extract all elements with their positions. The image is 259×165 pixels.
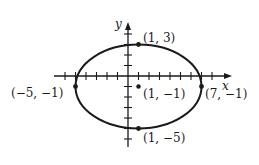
ellipse-diagram: y x (1, 3) (−5, −1) (1, −1) (7, −1) (1, … [0, 0, 259, 165]
point-bottom [136, 126, 141, 131]
label-center: (1, −1) [143, 87, 185, 101]
label-right: (7, −1) [205, 87, 247, 101]
label-left: (−5, −1) [11, 86, 63, 100]
point-right [199, 84, 204, 89]
point-center [136, 84, 140, 88]
y-axis-arrow-icon [125, 22, 131, 30]
y-axis-label: y [114, 17, 122, 31]
label-bottom: (1, −5) [143, 131, 185, 145]
point-left [73, 84, 78, 89]
point-top [136, 42, 141, 47]
label-top: (1, 3) [143, 31, 175, 45]
